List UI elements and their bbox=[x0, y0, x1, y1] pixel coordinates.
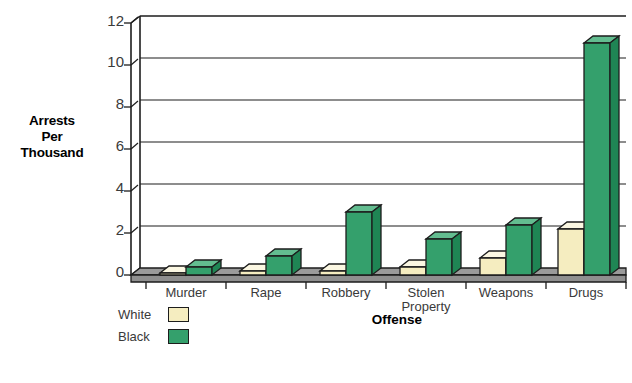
x-tick-label-stolen-property-line1: Stolen bbox=[408, 285, 445, 300]
bar-murder-black bbox=[186, 260, 221, 275]
bar-group-drugs bbox=[558, 36, 619, 275]
y-axis-line bbox=[124, 16, 140, 275]
bar-drugs-black bbox=[584, 36, 619, 275]
legend-item-black: Black bbox=[118, 327, 189, 345]
bar-robbery-black bbox=[346, 205, 381, 275]
x-axis-title: Offense bbox=[337, 312, 457, 327]
bar-chart: Arrests Per Thousand 12 10 8 6 4 2 0 bbox=[0, 0, 632, 383]
bar-group-rape bbox=[240, 249, 301, 275]
x-tick-label-weapons-line1: Weapons bbox=[479, 285, 534, 300]
bar-group-murder bbox=[160, 260, 221, 275]
legend-swatch-black bbox=[168, 329, 189, 344]
x-tick-label-rape: Rape bbox=[226, 286, 306, 300]
plot-area bbox=[0, 0, 632, 310]
bar-group-robbery bbox=[320, 205, 381, 275]
bar-stolen-property-black bbox=[426, 232, 461, 275]
x-tick-label-drugs: Drugs bbox=[546, 286, 626, 300]
legend-swatch-white bbox=[168, 307, 189, 322]
x-tick-label-robbery-line1: Robbery bbox=[321, 285, 370, 300]
x-tick-label-weapons: Weapons bbox=[466, 286, 546, 300]
x-tick-label-stolen-property: Stolen Property bbox=[386, 286, 466, 314]
bar-rape-black bbox=[266, 249, 301, 275]
x-tick-label-drugs-line1: Drugs bbox=[569, 285, 604, 300]
x-tick-label-rape-line1: Rape bbox=[250, 285, 281, 300]
legend: White Black bbox=[118, 305, 189, 349]
bar-weapons-black bbox=[506, 218, 541, 275]
x-tick-label-robbery: Robbery bbox=[306, 286, 386, 300]
legend-label-black: Black bbox=[118, 329, 162, 344]
bar-group-stolen-property bbox=[400, 232, 461, 275]
gridlines bbox=[140, 16, 626, 226]
x-tick-label-murder: Murder bbox=[146, 286, 226, 300]
x-tick-label-murder-line1: Murder bbox=[165, 285, 206, 300]
legend-item-white: White bbox=[118, 305, 189, 323]
legend-label-white: White bbox=[118, 307, 162, 322]
